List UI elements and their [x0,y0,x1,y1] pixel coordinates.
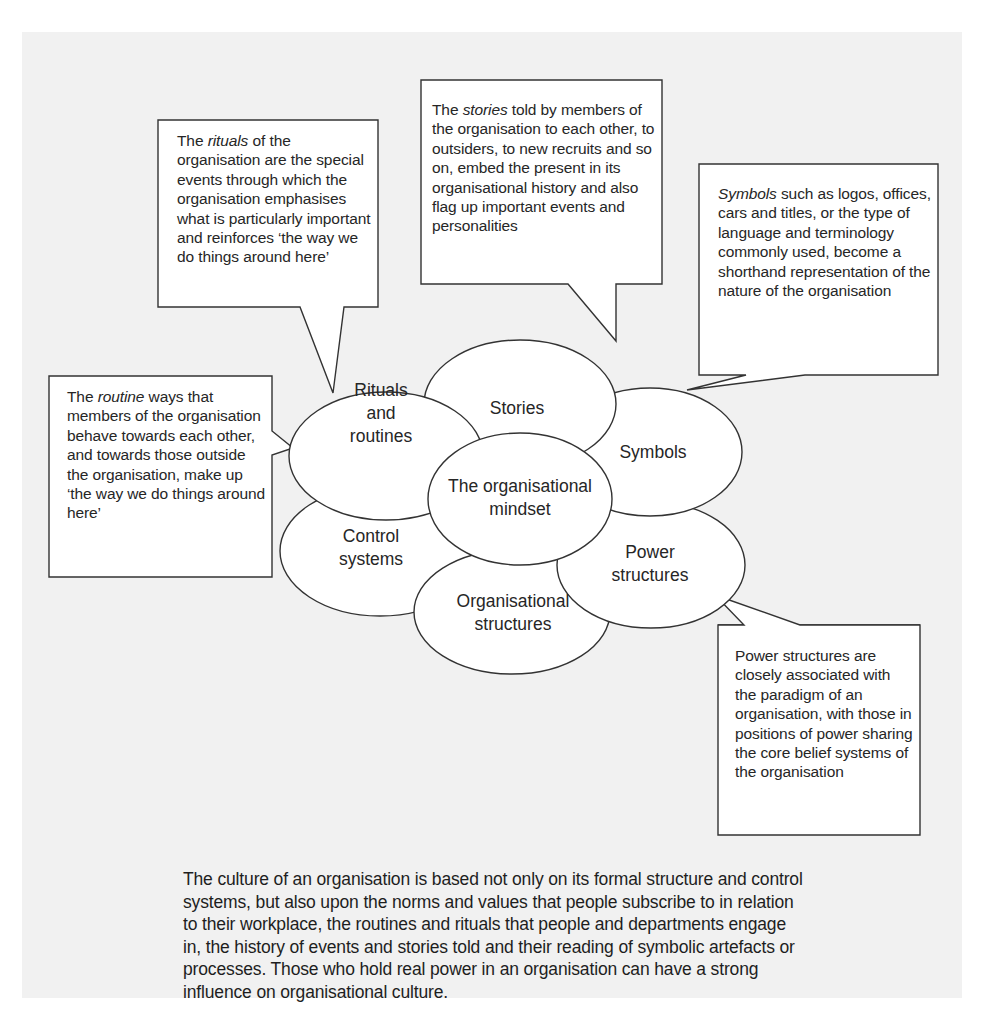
text: ways that members of the organisation be… [67,388,265,521]
label-line: Control [339,525,403,548]
label-symbols: Symbols [619,441,686,464]
label-line: Symbols [619,441,686,464]
label-organisational-structures: Organisational structures [457,590,570,636]
emphasis: routine [98,388,145,405]
text: The [67,388,98,405]
callout-stories: The stories told by members of the organ… [432,100,657,236]
label-organisational-mindset: The organisational mindset [448,475,592,521]
figure-caption: The culture of an organisation is based … [183,868,803,1004]
emphasis: rituals [208,132,249,149]
label-line: Rituals [350,379,412,402]
text: Power structures are closely associated … [735,647,912,780]
text: of the organisation are the special even… [177,132,370,265]
label-power-structures: Power structures [612,541,689,587]
label-line: routines [350,425,412,448]
emphasis: stories [463,101,508,118]
text: The [177,132,208,149]
label-line: The organisational [448,475,592,498]
label-line: Organisational [457,590,570,613]
text: The [432,101,463,118]
text: told by members of the organisation to e… [432,101,654,234]
label-line: systems [339,548,403,571]
label-stories: Stories [490,397,544,420]
label-control-systems: Control systems [339,525,403,571]
label-line: and [350,402,412,425]
callout-routines: The routine ways that members of the org… [67,387,267,523]
label-line: Power [612,541,689,564]
label-rituals-routines: Rituals and routines [350,379,412,448]
callout-rituals: The rituals of the organisation are the … [177,131,373,267]
callout-power: Power structures are closely associated … [735,646,915,782]
emphasis: Symbols [718,185,777,202]
label-line: Stories [490,397,544,420]
label-line: structures [457,613,570,636]
label-line: mindset [448,498,592,521]
label-line: structures [612,564,689,587]
text: such as logos, offices, cars and titles,… [718,185,931,299]
callout-symbols: Symbols such as logos, offices, cars and… [718,184,936,300]
